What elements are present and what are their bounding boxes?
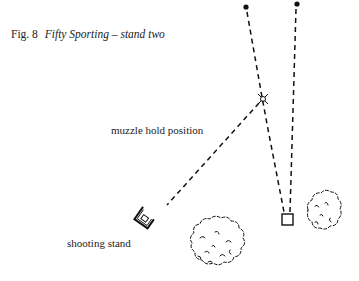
flight-path-left [247,12,284,212]
bush-large-center [190,216,244,265]
muzzle-hold-label: muzzle hold position [111,124,203,136]
flight-path-right [290,9,296,212]
shooting-stand-label: shooting stand [67,237,131,249]
shooting-stand-icon [134,207,156,228]
target-end-point-left [243,4,248,9]
diagram-canvas [0,0,359,281]
target-end-point-right [294,1,299,6]
trap-box [282,214,293,225]
bush-small-right [308,190,342,229]
line-of-sight [167,103,259,205]
